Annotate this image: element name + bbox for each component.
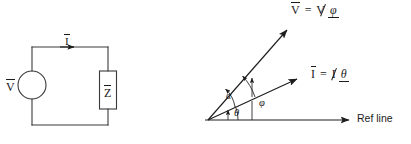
current-label-text: I xyxy=(65,35,69,47)
impedance-label-text: Z xyxy=(104,86,111,100)
voltage-source-label: V xyxy=(6,77,15,95)
voltage-angle-notation: φ xyxy=(325,4,338,16)
voltage-phasor-symbol-overbar xyxy=(291,2,300,3)
voltage-source-circle xyxy=(18,71,46,99)
voltage-angle-symbol: φ xyxy=(330,3,337,17)
current-phasor-label: I = I θ xyxy=(311,68,348,80)
current-angle-underline xyxy=(339,81,349,82)
voltage-source-label-overbar xyxy=(6,79,15,80)
figure-canvas: V Z I V = V φ I = I xyxy=(0,0,411,144)
voltage-phasor-symbol: V xyxy=(291,3,300,17)
alpha-angle-label: α xyxy=(226,91,231,101)
current-angle-symbol: θ xyxy=(341,67,347,81)
impedance-label: Z xyxy=(104,83,111,101)
voltage-phasor-label: V = V φ xyxy=(291,4,338,16)
theta-angle-label: θ xyxy=(234,108,239,119)
current-label-overbar xyxy=(64,34,70,35)
phi-angle-label: φ xyxy=(259,98,265,109)
voltage-angle-underline xyxy=(328,17,339,18)
circuit-diagram xyxy=(18,47,117,125)
current-phasor-symbol: I xyxy=(311,67,315,81)
current-angle-notation: θ xyxy=(336,68,348,80)
voltage-source-label-text: V xyxy=(6,80,15,94)
current-phasor-symbol-overbar xyxy=(311,66,316,67)
impedance-label-overbar xyxy=(104,85,111,86)
voltage-phasor-arrow xyxy=(208,30,287,120)
current-phasor-arrow xyxy=(208,79,297,120)
current-label: I xyxy=(65,31,69,49)
voltage-phasor-equals: = xyxy=(305,3,312,17)
reference-line-label: Ref line xyxy=(357,113,393,124)
current-phasor-equals: = xyxy=(320,67,327,81)
